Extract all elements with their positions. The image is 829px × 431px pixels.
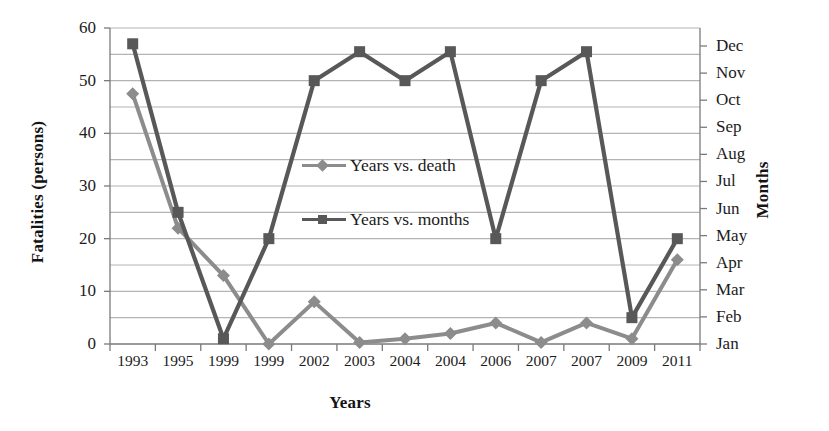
chart-legend: Years vs. death Years vs. months [302,152,469,260]
legend-swatch-months [302,211,346,227]
legend-label-death: Years vs. death [350,155,456,176]
legend-item-death: Years vs. death [302,152,469,178]
legend-swatch-death [302,157,346,173]
legend-item-months: Years vs. months [302,206,469,232]
legend-label-months: Years vs. months [350,209,469,230]
chart-container: Fatalities (persons) Months Years 010203… [0,0,829,431]
square-marker-icon [318,215,327,224]
diamond-marker-icon [316,159,329,172]
